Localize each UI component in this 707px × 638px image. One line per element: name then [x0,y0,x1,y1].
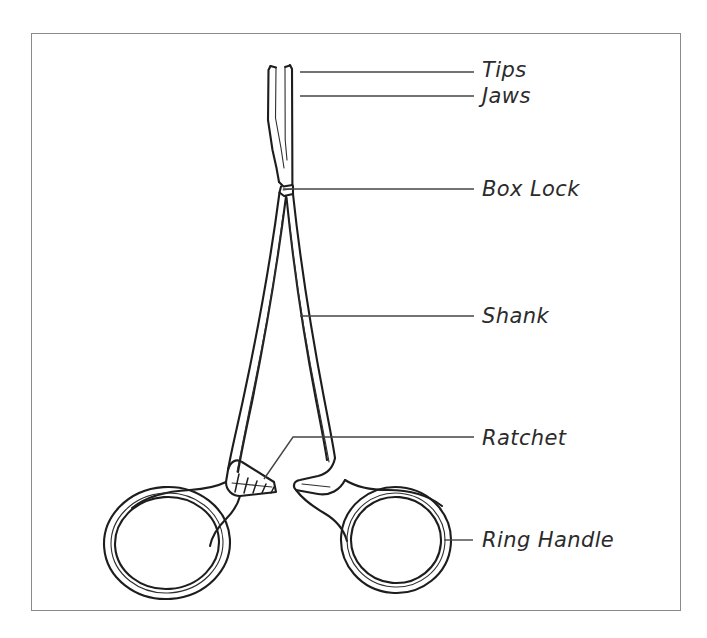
callout-label-ring-handle: Ring Handle [482,530,614,551]
callout-label-ratchet: Ratchet [482,428,567,449]
callout-label-shank: Shank [482,306,549,327]
callout-label-box-lock: Box Lock [482,179,580,200]
diagram-page: Tips Jaws Box Lock Shank Ratchet Ring Ha… [0,0,707,638]
callout-label-tips: Tips [482,60,527,81]
callout-label-jaws: Jaws [482,86,531,107]
diagram-frame [31,33,681,611]
